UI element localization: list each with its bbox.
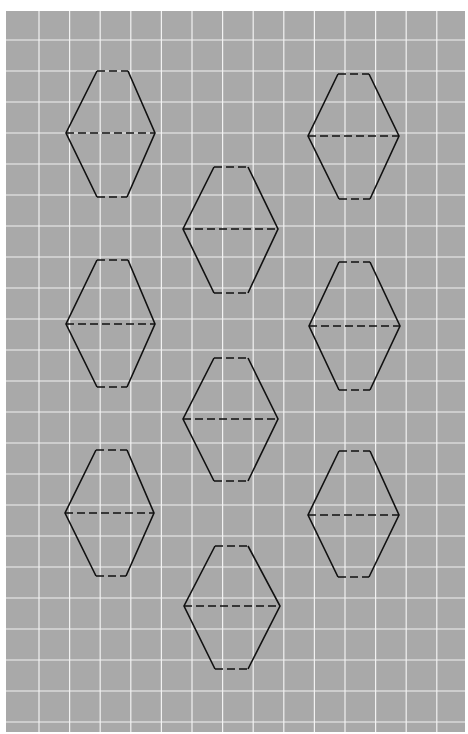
hexagon-cut-lines (183, 167, 278, 293)
hex-center-1 (183, 167, 278, 293)
hexagon-cut-lines (66, 71, 155, 197)
hex-left-1 (66, 71, 155, 197)
hexagon-cut-lines (184, 546, 280, 669)
hex-center-2 (183, 358, 278, 481)
hexagon-shapes (65, 71, 400, 669)
hex-right-1 (308, 74, 399, 199)
hexagon-cut-lines (308, 451, 399, 577)
hex-right-3 (308, 451, 399, 577)
grid-paper-sheet (6, 11, 465, 732)
hex-left-2 (66, 260, 155, 387)
hexagon-diagram (6, 11, 465, 732)
hex-left-3 (65, 450, 154, 576)
grid-lines (6, 11, 465, 732)
hex-right-2 (309, 262, 400, 390)
hex-center-3 (184, 546, 280, 669)
